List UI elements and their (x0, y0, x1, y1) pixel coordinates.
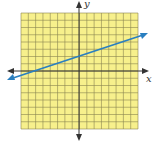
line-arrow-right-icon (140, 33, 148, 39)
y-axis-up-arrow-icon (76, 1, 82, 8)
x-axis-label: x (146, 73, 152, 84)
y-axis-label: y (84, 0, 90, 9)
x-axis-left-arrow-icon (7, 68, 14, 74)
line-arrow-left-icon (7, 74, 15, 80)
coordinate-plane (0, 0, 156, 147)
y-axis-down-arrow-icon (76, 134, 82, 141)
